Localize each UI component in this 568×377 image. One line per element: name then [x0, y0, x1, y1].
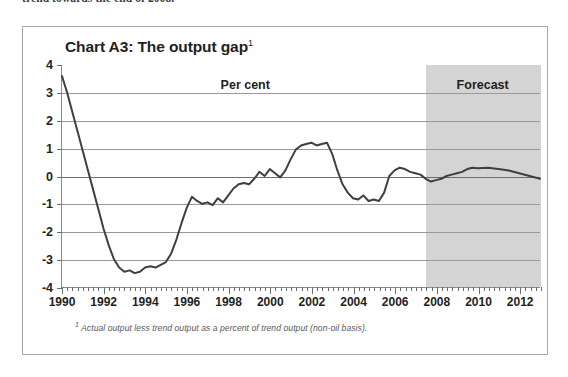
- x-axis-tick-2003.25: [338, 287, 339, 291]
- x-axis-tick-1996: [187, 287, 188, 294]
- x-axis-tick-2008.75: [452, 287, 453, 291]
- x-axis-tick-2011: [499, 287, 500, 291]
- x-axis-tick-2008.25: [442, 287, 443, 291]
- chart-title-footnote-marker: 1: [248, 38, 253, 48]
- x-axis-tick-2009.75: [473, 287, 474, 291]
- chart-title-text: Chart A3: The output gap: [65, 38, 248, 55]
- x-axis-label-1998: 1998: [215, 295, 242, 309]
- x-axis-tick-2000.25: [275, 287, 276, 291]
- plot-area: 43210-1-2-3-4 19901992199419961998200020…: [61, 65, 540, 288]
- x-axis-tick-2005.5: [385, 287, 386, 291]
- x-axis-tick-2005: [374, 287, 375, 291]
- x-axis-tick-2010.75: [494, 287, 495, 291]
- x-axis-tick-2002.5: [322, 287, 323, 291]
- x-axis-tick-1993: [124, 287, 125, 291]
- x-axis-tick-2003: [333, 287, 334, 291]
- x-axis-tick-1998.5: [239, 287, 240, 291]
- x-axis-tick-1996.25: [192, 287, 193, 291]
- surrounding-body-text: trend towards the end of 2008.: [22, 0, 542, 6]
- x-axis-tick-2006.75: [411, 287, 412, 291]
- y-axis-label-1: 1: [46, 142, 53, 156]
- x-axis-label-2000: 2000: [257, 295, 284, 309]
- x-axis-tick-1996.75: [203, 287, 204, 291]
- x-axis-tick-2005.25: [380, 287, 381, 291]
- x-axis-label-1994: 1994: [132, 295, 159, 309]
- x-axis-tick-2003.75: [348, 287, 349, 291]
- x-axis-tick-2001.75: [307, 287, 308, 291]
- x-axis-tick-2011.5: [510, 287, 511, 291]
- y-axis-label--4: -4: [42, 281, 53, 295]
- y-axis-label-4: 4: [46, 58, 53, 72]
- x-axis-tick-1995.75: [182, 287, 183, 291]
- footnote-marker: 1: [75, 321, 79, 328]
- x-axis-tick-1998.75: [244, 287, 245, 291]
- x-axis-tick-1994: [145, 287, 146, 294]
- x-axis-tick-1995.25: [171, 287, 172, 291]
- x-axis-label-1992: 1992: [90, 295, 117, 309]
- x-axis-tick-1992.25: [109, 287, 110, 291]
- x-axis-tick-2008.5: [447, 287, 448, 291]
- x-axis-tick-2011.25: [505, 287, 506, 291]
- x-axis-tick-2007.75: [432, 287, 433, 291]
- x-axis-tick-1994.5: [156, 287, 157, 291]
- x-axis-tick-1992.75: [119, 287, 120, 291]
- x-axis-tick-2010.5: [489, 287, 490, 291]
- x-axis-tick-1995.5: [177, 287, 178, 291]
- x-axis-tick-2004.25: [359, 287, 360, 291]
- x-axis-tick-1993.25: [130, 287, 131, 291]
- chart-footnote: 1 Actual output less trend output as a p…: [75, 323, 367, 333]
- x-axis-tick-1999.25: [255, 287, 256, 291]
- x-axis-tick-1992: [104, 287, 105, 294]
- output-gap-polyline: [62, 76, 540, 273]
- x-axis-tick-2012.25: [525, 287, 526, 291]
- x-axis-label-2012: 2012: [507, 295, 534, 309]
- x-axis-tick-1992.5: [114, 287, 115, 291]
- x-axis-tick-1991.5: [93, 287, 94, 291]
- x-axis-tick-2012.75: [536, 287, 537, 291]
- x-axis-tick-2009.25: [463, 287, 464, 291]
- x-axis-tick-1990: [62, 287, 63, 294]
- x-axis-tick-2000: [270, 287, 271, 294]
- x-axis-tick-1997.5: [218, 287, 219, 291]
- x-axis-label-1996: 1996: [174, 295, 201, 309]
- y-axis-label-0: 0: [46, 170, 53, 184]
- y-axis-label--1: -1: [42, 197, 53, 211]
- x-axis-tick-1995: [166, 287, 167, 291]
- x-axis-tick-2001.25: [296, 287, 297, 291]
- x-axis-tick-2010.25: [484, 287, 485, 291]
- x-axis-tick-1999: [249, 287, 250, 291]
- x-axis-tick-2001.5: [302, 287, 303, 291]
- x-axis-tick-2012: [520, 287, 521, 294]
- x-axis-tick-2007.25: [421, 287, 422, 291]
- x-axis-label-2008: 2008: [424, 295, 451, 309]
- x-axis-tick-2004.75: [369, 287, 370, 291]
- x-axis-tick-2002: [312, 287, 313, 294]
- x-axis-tick-1997: [208, 287, 209, 291]
- x-axis-tick-1990.25: [67, 287, 68, 291]
- x-axis-tick-2004: [354, 287, 355, 294]
- chart-figure-frame: Chart A3: The output gap1 43210-1-2-3-4 …: [22, 26, 548, 355]
- x-axis-tick-2007: [416, 287, 417, 291]
- x-axis-tick-1990.5: [72, 287, 73, 291]
- x-axis-tick-2001: [291, 287, 292, 291]
- x-axis-tick-1994.25: [151, 287, 152, 291]
- x-axis-tick-2006.5: [406, 287, 407, 291]
- x-axis-tick-2002.75: [328, 287, 329, 291]
- x-axis-tick-2002.25: [317, 287, 318, 291]
- series-line-output-gap: [62, 65, 540, 287]
- footnote-text: Actual output less trend output as a per…: [81, 323, 367, 333]
- x-axis-tick-2009: [458, 287, 459, 291]
- x-axis-tick-2000.75: [286, 287, 287, 291]
- x-axis-tick-2006: [395, 287, 396, 294]
- x-axis-label-2010: 2010: [465, 295, 492, 309]
- x-axis-tick-2000.5: [281, 287, 282, 291]
- x-axis-tick-1991: [83, 287, 84, 291]
- x-axis-label-2006: 2006: [382, 295, 409, 309]
- y-axis-label--2: -2: [42, 225, 53, 239]
- x-axis-label-2004: 2004: [340, 295, 367, 309]
- x-axis-tick-1994.75: [161, 287, 162, 291]
- x-axis-tick-2010: [479, 287, 480, 294]
- x-axis-tick-1993.75: [140, 287, 141, 291]
- x-axis-label-2002: 2002: [299, 295, 326, 309]
- x-axis-tick-1998.25: [234, 287, 235, 291]
